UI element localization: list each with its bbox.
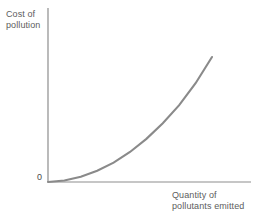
cost-of-pollution-curve-line <box>48 57 212 182</box>
x-axis-label: Quantity of pollutants emitted <box>172 190 244 212</box>
x-axis-label-line-1: Quantity of <box>172 190 244 201</box>
x-axis-label-line-2: pollutants emitted <box>172 201 244 212</box>
y-axis-label-line-2: pollution <box>6 20 40 31</box>
y-axis-label-line-1: Cost of <box>6 9 40 20</box>
origin-tick-label: 0 <box>37 172 42 183</box>
plot-area <box>0 0 257 216</box>
chart-figure: Cost of pollution Quantity of pollutants… <box>0 0 257 216</box>
y-axis-label: Cost of pollution <box>6 9 40 31</box>
